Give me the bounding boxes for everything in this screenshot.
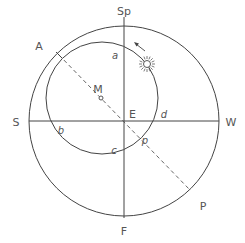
label-dashed-end: P <box>200 200 207 213</box>
a-tick <box>56 52 62 58</box>
label-top: Sp <box>117 5 131 18</box>
arrow-icon <box>134 42 145 51</box>
sun-icon <box>139 56 155 72</box>
label-right: W <box>226 116 237 129</box>
label-dashed-start: A <box>35 40 43 53</box>
label-inner-c: c <box>111 145 117 156</box>
label-inner-d: d <box>161 109 168 120</box>
label-center: E <box>129 108 136 121</box>
label-inner-center: M <box>93 83 103 96</box>
inner-center-point <box>99 96 103 100</box>
label-inner-a: a <box>112 50 118 61</box>
orbit-diagram: Sp F S W E M A P p a b c d <box>0 0 245 243</box>
label-left: S <box>13 116 20 129</box>
label-bottom: F <box>121 225 127 238</box>
label-inner-b: b <box>58 125 64 136</box>
label-dashed-inner-crossing: p <box>141 135 148 146</box>
